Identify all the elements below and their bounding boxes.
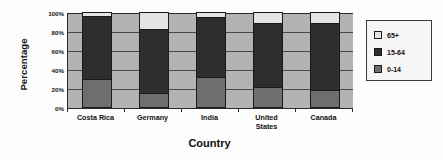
bar-segment-15-64[interactable] — [310, 23, 340, 91]
bar-india[interactable] — [196, 13, 226, 108]
x-axis-tick-1 — [124, 108, 125, 112]
bar-segment-0-14[interactable] — [196, 77, 226, 108]
bar-group — [68, 13, 353, 108]
bar-segment-0-14[interactable] — [82, 79, 112, 109]
bar-segment-65plus[interactable] — [253, 12, 283, 24]
bar-germany[interactable] — [139, 13, 169, 108]
x-axis-title: Country — [67, 137, 352, 149]
y-axis-tick-40pct: 40% — [34, 67, 64, 74]
x-axis-tick-2 — [181, 108, 182, 112]
x-axis-tick-5 — [352, 108, 353, 112]
y-axis-tick-20pct: 20% — [34, 86, 64, 93]
bar-segment-0-14[interactable] — [310, 90, 340, 108]
bar-segment-65plus[interactable] — [139, 12, 169, 30]
legend-item-label: 15-64 — [387, 49, 405, 56]
bar-segment-0-14[interactable] — [139, 93, 169, 108]
y-axis-tick-80pct: 80% — [34, 29, 64, 36]
legend-item-label: 0-14 — [387, 66, 401, 73]
bar-canada[interactable] — [310, 13, 340, 108]
y-axis-title-label: Percentage — [18, 38, 29, 90]
bar-segment-15-64[interactable] — [196, 17, 226, 78]
plot-area — [67, 13, 353, 109]
chart-legend: 65+15-640-14 — [366, 20, 432, 81]
legend-item-15-64[interactable]: 15-64 — [374, 44, 431, 60]
legend-swatch-icon — [374, 65, 382, 73]
bar-costa-rica[interactable] — [82, 13, 112, 108]
stacked-bar-chart: Percentage 0%20%40%60%80%100% Costa Rica… — [0, 0, 443, 160]
x-axis-tick-3 — [238, 108, 239, 112]
x-axis-label-line: Canada — [289, 114, 359, 123]
bar-united-states[interactable] — [253, 13, 283, 108]
bar-segment-65plus[interactable] — [196, 12, 226, 18]
x-axis-label-canada: Canada — [289, 114, 359, 123]
y-axis-tick-labels: 0%20%40%60%80%100% — [34, 8, 64, 112]
x-axis-tick-4 — [295, 108, 296, 112]
y-axis-tick-60pct: 60% — [34, 48, 64, 55]
y-axis-tick-100pct: 100% — [34, 10, 64, 17]
legend-swatch-icon — [374, 48, 382, 56]
legend-item-label: 65+ — [387, 32, 399, 39]
bar-segment-65plus[interactable] — [82, 12, 112, 17]
legend-item-65plus[interactable]: 65+ — [374, 27, 431, 43]
legend-item-0-14[interactable]: 0-14 — [374, 61, 431, 77]
x-axis-tick-0 — [67, 108, 68, 112]
y-axis-tick-0pct: 0% — [34, 105, 64, 112]
y-axis-title: Percentage — [14, 20, 32, 108]
bar-segment-15-64[interactable] — [139, 29, 169, 94]
bar-segment-0-14[interactable] — [253, 87, 283, 108]
bar-segment-65plus[interactable] — [310, 12, 340, 24]
legend-swatch-icon — [374, 31, 382, 39]
bar-segment-15-64[interactable] — [82, 16, 112, 80]
bar-segment-15-64[interactable] — [253, 23, 283, 88]
x-axis-label-line: States — [232, 123, 302, 132]
